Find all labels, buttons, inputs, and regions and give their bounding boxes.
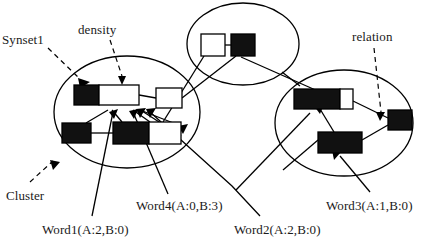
leader-word1 xyxy=(92,112,113,216)
node-left-bottompair-white[interactable] xyxy=(149,122,181,144)
label-cluster: Cluster xyxy=(6,188,44,204)
node-right-top-black[interactable] xyxy=(294,89,340,109)
node-right-edge-black[interactable] xyxy=(388,110,412,130)
edge-right-edge-to-bottom xyxy=(362,125,388,140)
label-synset1: Synset1 xyxy=(2,32,44,48)
leader-right-in2 xyxy=(282,72,300,86)
label-relation: relation xyxy=(352,29,393,45)
label-word4: Word4(A:0,B:3) xyxy=(136,198,223,214)
label-density: density xyxy=(78,22,116,38)
arrowhead-word4a xyxy=(129,109,138,119)
dashed-relation xyxy=(374,48,381,112)
label-word3: Word3(A:1,B:0) xyxy=(326,198,413,214)
label-word1: Word1(A:2,B:0) xyxy=(42,222,129,238)
node-top-white[interactable] xyxy=(201,34,225,56)
dashed-synset1 xyxy=(48,48,80,79)
arrowhead-cluster xyxy=(50,160,60,170)
cluster-ellipse-left xyxy=(54,56,200,168)
edge-left-top-to-right-box xyxy=(139,95,156,98)
edge-right-top-to-bottom xyxy=(320,109,334,132)
edge-top-to-right-cluster xyxy=(241,57,320,92)
leader-word2-right xyxy=(236,113,310,190)
dashed-cluster xyxy=(30,161,53,182)
edge-top-to-left-cluster xyxy=(182,56,236,98)
arrowhead-word1 xyxy=(109,109,118,119)
diagram-canvas: Synset1 density relation Cluster Word1(A… xyxy=(0,0,426,246)
node-left-bottompair-black[interactable] xyxy=(113,122,149,144)
node-left-top-white[interactable] xyxy=(99,85,139,105)
dashed-density xyxy=(110,40,122,76)
node-right-top-white[interactable] xyxy=(340,89,353,109)
arrowhead-density xyxy=(118,76,126,85)
label-word2: Word2(A:2,B:0) xyxy=(234,222,321,238)
node-left-top-black[interactable] xyxy=(74,85,99,105)
node-left-bottom-black[interactable] xyxy=(62,123,91,143)
node-left-right-white[interactable] xyxy=(156,88,182,108)
leader-fan-5 xyxy=(86,110,108,123)
node-right-bottom-black[interactable] xyxy=(318,132,362,153)
annotation-leaders xyxy=(30,40,381,182)
node-top-black[interactable] xyxy=(231,34,255,56)
